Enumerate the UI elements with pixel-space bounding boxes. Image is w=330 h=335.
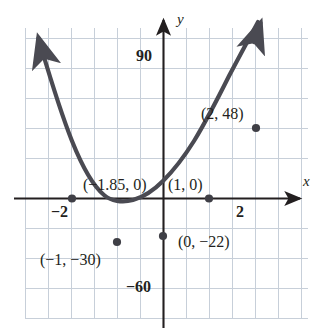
x-tick-label-minus-2: −2 xyxy=(51,204,68,220)
point-label-2-48: (2, 48) xyxy=(201,106,244,122)
y-axis-label: y xyxy=(177,12,184,27)
curve-arrow-left xyxy=(39,38,45,58)
y-tick-label-minus-60: −60 xyxy=(126,279,151,295)
point-label-minus-1-85-0: (−1.85, 0) xyxy=(83,177,147,193)
point-vertex xyxy=(113,238,121,246)
point-2-48 xyxy=(252,124,260,132)
x-axis-label: x xyxy=(303,174,310,189)
x-tick-label-2: 2 xyxy=(236,204,244,220)
y-tick-label-90: 90 xyxy=(136,48,152,64)
point-label-0-minus-22: (0, −22) xyxy=(178,234,230,250)
coordinate-plane xyxy=(0,0,330,335)
point-x-intercept-right xyxy=(205,194,213,202)
point-x-intercept-left xyxy=(68,194,76,202)
point-label-minus-1-minus-30: (−1, −30) xyxy=(40,252,101,268)
graph-figure: y x 90 −60 −2 2 (−1.85, 0) (1, 0) (2, 48… xyxy=(0,0,330,335)
point-y-intercept xyxy=(159,232,167,240)
point-label-1-0: (1, 0) xyxy=(168,177,203,193)
